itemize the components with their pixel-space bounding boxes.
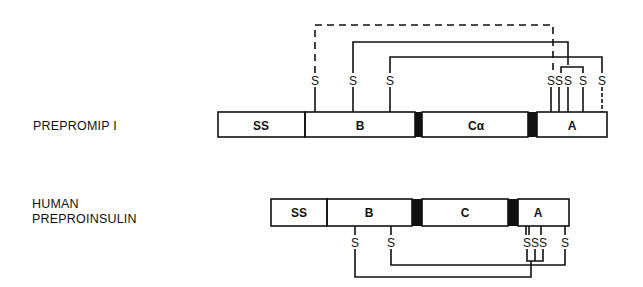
svg-text:S: S: [523, 236, 531, 250]
svg-text:S: S: [555, 74, 563, 88]
svg-text:S: S: [311, 74, 319, 88]
svg-text:S: S: [547, 74, 555, 88]
preproinsulin-s-labels: S S S S S S: [351, 236, 569, 250]
svg-text:S: S: [598, 74, 606, 88]
svg-text:A: A: [534, 206, 543, 220]
svg-text:SS: SS: [291, 206, 307, 220]
cleavage-site: [412, 199, 422, 226]
prepromip-s-labels: S S S S S S S S: [311, 74, 606, 88]
svg-text:S: S: [386, 74, 394, 88]
disulfide-bond: [391, 249, 565, 265]
cleavage-site: [528, 112, 537, 137]
svg-text:S: S: [349, 74, 357, 88]
svg-text:SS: SS: [253, 119, 269, 133]
segment-a: [518, 199, 569, 226]
svg-text:S: S: [579, 74, 587, 88]
disulfide-bond-intrachain: [561, 67, 583, 73]
svg-text:Cα: Cα: [468, 119, 485, 133]
disulfide-bond: [390, 57, 602, 73]
svg-text:S: S: [351, 236, 359, 250]
svg-text:S: S: [564, 74, 572, 88]
svg-text:C: C: [461, 206, 470, 220]
svg-text:S: S: [387, 236, 395, 250]
svg-text:S: S: [539, 236, 547, 250]
cleavage-site: [415, 112, 422, 137]
svg-text:B: B: [356, 119, 365, 133]
disulfide-bond: [355, 249, 531, 277]
cleavage-site: [508, 199, 518, 226]
svg-text:A: A: [568, 119, 577, 133]
disulfide-bond-dashed: [315, 25, 553, 73]
svg-text:S: S: [531, 236, 539, 250]
svg-text:B: B: [365, 206, 374, 220]
diagram-canvas: SS B Cα A S S S S S S S S SS B C: [0, 0, 643, 287]
svg-text:S: S: [561, 236, 569, 250]
